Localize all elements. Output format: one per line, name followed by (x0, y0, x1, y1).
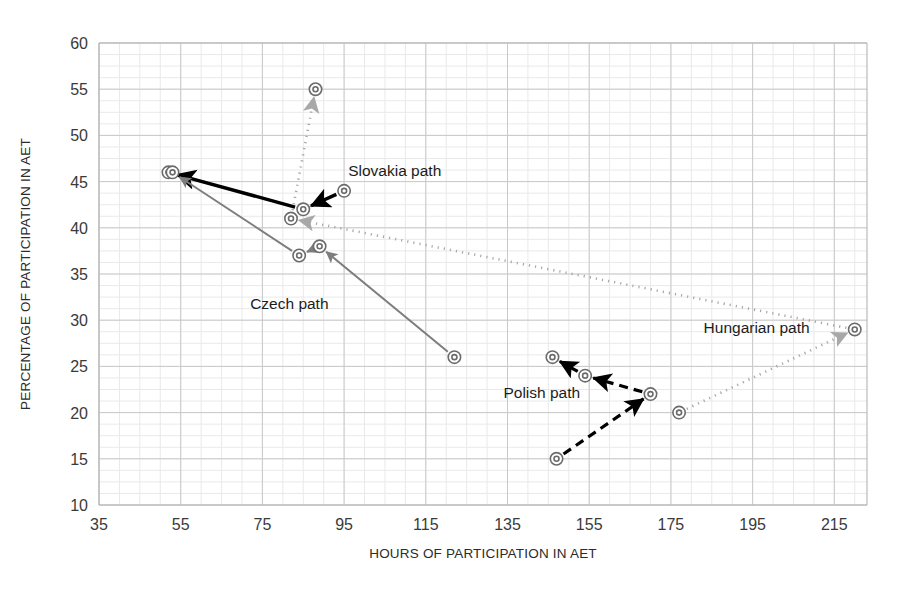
data-point-marker (644, 388, 656, 400)
chart-container: 35557595115135155175195215 1015202530354… (0, 0, 899, 601)
y-tick-label: 20 (70, 405, 88, 422)
data-point-marker (546, 351, 558, 363)
x-tick-label: 195 (739, 516, 766, 533)
y-tick-label: 45 (70, 174, 88, 191)
x-tick-label: 215 (821, 516, 848, 533)
x-tick-label: 135 (494, 516, 521, 533)
data-point-marker (313, 240, 325, 252)
y-axis-tick-labels: 1015202530354045505560 (70, 35, 88, 514)
y-tick-label: 25 (70, 358, 88, 375)
data-point-marker (579, 369, 591, 381)
data-point-marker (338, 185, 350, 197)
data-point-marker (293, 249, 305, 261)
x-axis-tick-labels: 35557595115135155175195215 (90, 516, 848, 533)
y-tick-label: 55 (70, 81, 88, 98)
x-tick-label: 175 (658, 516, 685, 533)
scatter-plot-svg: 35557595115135155175195215 1015202530354… (0, 0, 899, 601)
data-point-marker (673, 406, 685, 418)
x-tick-label: 115 (413, 516, 439, 533)
y-tick-label: 40 (70, 220, 88, 237)
x-axis-title: HOURS OF PARTICIPATION IN AET (369, 546, 597, 561)
x-tick-label: 55 (172, 516, 190, 533)
y-tick-label: 35 (70, 266, 88, 283)
data-point-marker (309, 83, 321, 95)
data-point-marker (166, 166, 178, 178)
x-tick-label: 35 (90, 516, 108, 533)
series-annotation-label: Czech path (250, 295, 328, 312)
series-annotation-label: Slovakia path (348, 162, 441, 179)
data-point-marker (550, 453, 562, 465)
y-tick-label: 10 (70, 497, 88, 514)
y-tick-label: 50 (70, 127, 88, 144)
x-tick-label: 95 (335, 516, 353, 533)
data-point-marker (448, 351, 460, 363)
x-tick-label: 75 (254, 516, 272, 533)
data-point-marker (285, 212, 297, 224)
data-point-marker (297, 203, 309, 215)
series-annotation-label: Hungarian path (704, 319, 810, 336)
data-point-marker (849, 323, 861, 335)
y-tick-label: 15 (70, 451, 88, 468)
y-tick-label: 60 (70, 35, 88, 52)
y-tick-label: 30 (70, 312, 88, 329)
x-tick-label: 155 (576, 516, 603, 533)
series-annotation-label: Polish path (503, 384, 580, 401)
y-axis-title: PERCENTAGE OF PARTICIPATION IN AET (18, 138, 33, 410)
